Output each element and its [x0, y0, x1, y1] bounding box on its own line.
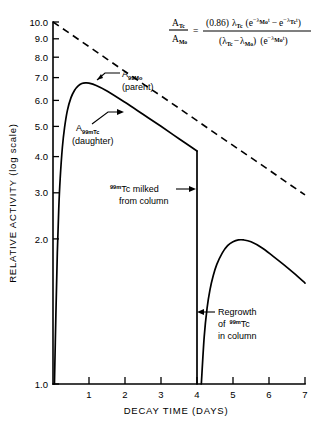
eq-den-lambda1-sub: Tc: [227, 41, 233, 47]
y-axis-title: RELATIVE ACTIVITY (log scale): [7, 123, 18, 283]
eq-sup1-t: t: [268, 16, 270, 23]
decay-chart: 10.0 9.0 8.0 7.0 6.0 5.0 4.0 3.0 2.0 1.0…: [0, 0, 315, 427]
x-tick-label-2: 2: [122, 389, 127, 400]
x-tick-label-5: 5: [230, 389, 235, 400]
parent-curve-dashed: [53, 22, 305, 195]
eq-den-sup-sub: Mo: [274, 37, 282, 43]
axes: [53, 22, 305, 384]
x-tick-label-7: 7: [302, 389, 307, 400]
equation: ATc AMo = (0.86)λTc(e−λMot−e−λTct) (λTc−…: [169, 16, 311, 47]
regrowth-label-line2: of99mTc: [218, 319, 250, 330]
milked-label-line2: from column: [119, 196, 169, 206]
regrowth-label-line3: in column: [218, 331, 257, 341]
regrowth-label-element: Tc: [241, 319, 251, 329]
x-tick-label-3: 3: [158, 389, 163, 400]
eq-den-minus: −: [234, 36, 239, 46]
eq-sup1-sub: Mo: [260, 19, 268, 25]
x-axis-title: DECAY TIME (DAYS): [124, 405, 229, 416]
x-tick-label-6: 6: [266, 389, 271, 400]
y-tick-label-2: 2.0: [35, 234, 48, 245]
daughter-label-element: Tc: [93, 129, 99, 135]
equation-denominator-right: (λTc−λMo)(e−λMot): [219, 34, 288, 47]
eq-den-close2: ): [284, 36, 287, 47]
y-tick-label-10: 10.0: [30, 17, 49, 28]
eq-coefficient: (0.86): [206, 18, 229, 29]
y-tick-label-9: 9.0: [35, 33, 48, 44]
x-axis-tick-labels: 1 2 3 4 5 6 7: [86, 389, 307, 400]
eq-den-close1: ): [253, 36, 256, 47]
milked-label-isotope: 99m: [110, 184, 121, 190]
x-tick-label-4: 4: [194, 389, 199, 400]
equation-equals: =: [193, 26, 198, 36]
eq-numerator-minus: −: [272, 18, 277, 28]
y-tick-label-4: 4.0: [35, 151, 48, 162]
y-tick-label-7: 7.0: [35, 72, 48, 83]
milked-label-line1: 99mTc milked: [110, 184, 159, 195]
equation-denominator-left: AMo: [172, 34, 187, 45]
figure-container: 10.0 9.0 8.0 7.0 6.0 5.0 4.0 3.0 2.0 1.0…: [0, 0, 315, 427]
eq-den-lambda2-sub: Mo: [245, 41, 253, 47]
equation-numerator-right: (0.86)λTc(e−λMot−e−λTct): [206, 16, 301, 29]
regrowth-label-isotope: 99m: [230, 319, 241, 325]
eq-A-mo-sub: Mo: [179, 39, 187, 45]
y-tick-label-5: 5.0: [35, 121, 48, 132]
annotation-daughter: A99mTc (daughter): [72, 109, 124, 146]
daughter-label-mass: 99m: [82, 129, 93, 135]
y-tick-label-8: 8.0: [35, 52, 48, 63]
eq-den-open2: (e: [260, 36, 267, 47]
regrowth-label-line1: Regrowth: [218, 307, 257, 317]
x-tick-label-1: 1: [86, 389, 91, 400]
milked-label-text: Tc milked: [121, 184, 159, 194]
annotation-milked: 99mTc milked from column: [110, 184, 196, 207]
eq-A-tc-sub: Tc: [179, 23, 185, 29]
annotation-parent: A99Mo (parent): [97, 69, 154, 92]
parent-label-element: Mo: [134, 75, 143, 81]
daughter-label-line2: (daughter): [72, 136, 114, 146]
daughter-label-line1: A99mTc: [76, 123, 99, 135]
regrowth-label-of: of: [218, 319, 226, 329]
eq-close-1: ): [298, 18, 301, 29]
y-tick-label-3: 3.0: [35, 187, 48, 198]
y-tick-label-6: 6.0: [35, 95, 48, 106]
parent-label-line2: (parent): [122, 82, 154, 92]
eq-lambda-tc-sub: Tc: [237, 23, 243, 29]
eq-open-e1: (e: [245, 18, 252, 29]
daughter-arrowhead: [117, 109, 124, 115]
milked-arrowhead: [189, 186, 196, 192]
parent-label-line1: A99Mo: [122, 69, 143, 81]
y-tick-label-1: 1.0: [35, 379, 48, 390]
equation-numerator-left: ATc: [172, 18, 185, 29]
regrowth-arrowhead: [197, 309, 204, 315]
y-axis-tick-labels: 10.0 9.0 8.0 7.0 6.0 5.0 4.0 3.0 2.0 1.0: [30, 17, 49, 390]
